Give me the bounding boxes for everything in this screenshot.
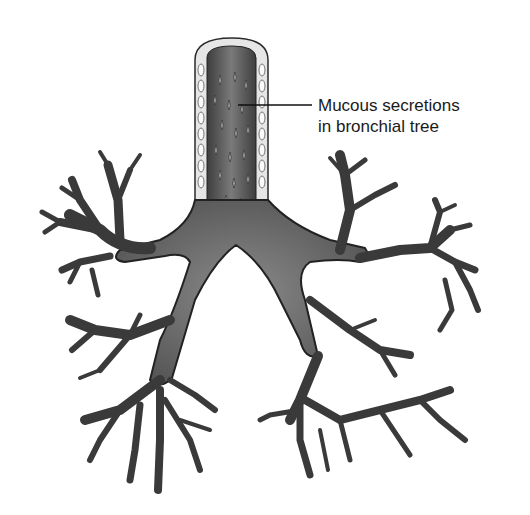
main-bronchi — [116, 200, 368, 385]
right-lower-branches — [260, 300, 465, 475]
right-upper-branches — [330, 155, 478, 330]
annotation-line-1: Mucous secretions — [318, 95, 460, 116]
left-upper-branches — [42, 152, 150, 295]
left-lower-branches — [70, 315, 215, 490]
trachea — [195, 38, 268, 215]
bronchial-tree-illustration — [0, 0, 530, 515]
annotation-label: Mucous secretions in bronchial tree — [318, 95, 460, 137]
annotation-line-2: in bronchial tree — [318, 116, 460, 137]
